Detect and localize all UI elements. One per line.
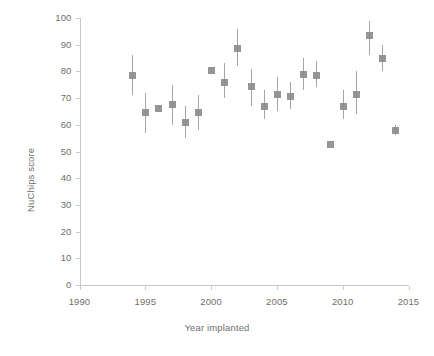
y-tick-label: 70 [42, 92, 72, 103]
x-axis-title: Year implanted [0, 322, 434, 333]
x-tick-mark [145, 286, 146, 290]
y-tick-label: 50 [42, 146, 72, 157]
x-axis-line [80, 285, 409, 286]
x-tick-mark [211, 286, 212, 290]
y-tick-mark [76, 18, 80, 19]
y-tick-mark [76, 232, 80, 233]
y-tick-label: 0 [42, 279, 72, 290]
y-tick-label: 30 [42, 199, 72, 210]
y-tick-mark [76, 45, 80, 46]
y-tick-label: 100 [42, 12, 72, 23]
x-tick-mark [277, 286, 278, 290]
y-tick-label: 40 [42, 172, 72, 183]
data-marker[interactable] [353, 91, 360, 98]
y-tick-label: 10 [42, 252, 72, 263]
y-tick-label: 60 [42, 119, 72, 130]
y-tick-mark [76, 125, 80, 126]
y-axis-title: NuChips score [25, 148, 36, 212]
data-marker[interactable] [208, 67, 215, 74]
plot-area: 0102030405060708090100199019952000200520… [0, 0, 434, 356]
data-marker[interactable] [234, 45, 241, 52]
data-marker[interactable] [221, 79, 228, 86]
x-tick-label: 1995 [123, 296, 167, 307]
y-tick-label: 20 [42, 226, 72, 237]
data-marker[interactable] [155, 105, 162, 112]
y-tick-label: 90 [42, 39, 72, 50]
x-tick-label: 2005 [255, 296, 299, 307]
chart-figure: 0102030405060708090100199019952000200520… [0, 0, 434, 356]
x-tick-mark [409, 286, 410, 290]
data-marker[interactable] [274, 91, 281, 98]
y-tick-mark [76, 258, 80, 259]
data-marker[interactable] [327, 141, 334, 148]
x-tick-mark [343, 286, 344, 290]
data-marker[interactable] [261, 103, 268, 110]
data-marker[interactable] [366, 32, 373, 39]
data-marker[interactable] [300, 71, 307, 78]
data-marker[interactable] [248, 83, 255, 90]
y-tick-label: 80 [42, 65, 72, 76]
data-marker[interactable] [169, 101, 176, 108]
data-marker[interactable] [379, 55, 386, 62]
data-marker[interactable] [392, 127, 399, 134]
data-marker[interactable] [195, 109, 202, 116]
y-tick-mark [76, 178, 80, 179]
y-axis-line [80, 18, 81, 286]
y-tick-mark [76, 71, 80, 72]
x-tick-label: 2015 [387, 296, 431, 307]
data-marker[interactable] [142, 109, 149, 116]
data-marker[interactable] [313, 72, 320, 79]
x-tick-label: 1990 [58, 296, 102, 307]
data-marker[interactable] [182, 119, 189, 126]
x-tick-mark [80, 286, 81, 290]
y-tick-mark [76, 205, 80, 206]
data-marker[interactable] [287, 93, 294, 100]
y-tick-mark [76, 152, 80, 153]
y-tick-mark [76, 98, 80, 99]
data-marker[interactable] [340, 103, 347, 110]
data-marker[interactable] [129, 72, 136, 79]
x-tick-label: 2010 [321, 296, 365, 307]
x-tick-label: 2000 [189, 296, 233, 307]
